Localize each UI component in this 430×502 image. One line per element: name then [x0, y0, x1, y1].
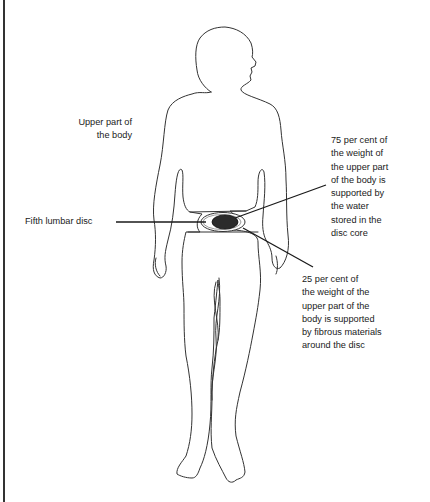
lumbar-disc [201, 213, 245, 232]
label-fifth-lumbar-disc: Fifth lumbar disc [25, 215, 92, 228]
annotation-25-percent-fibrous: 25 per cent of the weight of the upper p… [302, 273, 382, 353]
body-outline [153, 27, 288, 482]
leader-line-75 [235, 185, 326, 218]
annotation-75-percent-water-core: 75 per cent of the weight of the upper p… [331, 134, 388, 240]
leader-line-25 [243, 228, 313, 267]
disc-core [212, 215, 238, 229]
label-upper-part-of-body: Upper part of the body [60, 116, 132, 143]
body-figure [0, 0, 430, 502]
